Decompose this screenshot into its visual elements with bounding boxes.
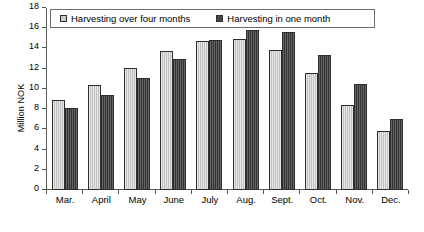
y-axis-tick: 6 xyxy=(42,128,46,129)
x-axis-label: June xyxy=(156,194,192,205)
y-axis-tick: 16 xyxy=(42,27,46,28)
y-axis-tick-label: 16 xyxy=(29,21,39,31)
legend-item-harvesting-over-four-months: Harvesting over four months xyxy=(60,13,190,24)
y-axis-tick-label: 18 xyxy=(29,1,39,11)
bar xyxy=(341,105,354,190)
y-axis-tick-label: 2 xyxy=(34,163,39,173)
plot-area: 024681012141618 xyxy=(46,8,408,190)
y-axis-tick-label: 0 xyxy=(34,183,39,193)
bar-group xyxy=(191,8,227,190)
x-axis-label: July xyxy=(192,194,228,205)
y-axis-tick-label: 14 xyxy=(29,41,39,51)
legend-label: Harvesting over four months xyxy=(71,13,190,24)
y-axis-tick-label: 12 xyxy=(29,62,39,72)
legend-swatch-icon xyxy=(216,15,223,22)
y-axis-tick: 2 xyxy=(42,169,46,170)
x-axis-label: May xyxy=(119,194,155,205)
legend-swatch-icon xyxy=(60,15,67,22)
bar xyxy=(65,108,78,190)
x-axis-label: April xyxy=(83,194,119,205)
bar-groups xyxy=(47,8,408,190)
bar-group xyxy=(372,8,408,190)
bar xyxy=(160,51,173,190)
legend-label: Harvesting in one month xyxy=(227,13,330,24)
bar xyxy=(88,85,101,190)
y-axis-tick-label: 4 xyxy=(34,143,39,153)
x-axis-label: Dec. xyxy=(373,194,409,205)
y-axis-tick: 14 xyxy=(42,47,46,48)
bar-group xyxy=(300,8,336,190)
bar xyxy=(354,84,367,190)
bar-group xyxy=(336,8,372,190)
bar-group xyxy=(119,8,155,190)
bar xyxy=(390,119,403,190)
x-axis-label: Sept. xyxy=(264,194,300,205)
legend-item-harvesting-in-one-month: Harvesting in one month xyxy=(216,13,330,24)
chart-legend: Harvesting over four months Harvesting i… xyxy=(50,9,375,28)
bar-group xyxy=(155,8,191,190)
bar xyxy=(196,41,209,190)
y-axis-tick: 10 xyxy=(42,88,46,89)
x-axis-label: Nov. xyxy=(337,194,373,205)
x-axis-label: Aug. xyxy=(228,194,264,205)
bar xyxy=(269,50,282,190)
y-axis-tick-label: 8 xyxy=(34,102,39,112)
bar xyxy=(209,40,222,190)
bar-group xyxy=(264,8,300,190)
y-axis-tick-label: 10 xyxy=(29,82,39,92)
bar-chart: Million NOK 024681012141618 Mar.AprilMay… xyxy=(0,0,424,232)
y-axis-tick-label: 6 xyxy=(34,122,39,132)
bar xyxy=(246,30,259,190)
y-axis-tick: 12 xyxy=(42,68,46,69)
bar xyxy=(173,59,186,190)
bar xyxy=(101,95,114,190)
y-axis-tick: 18 xyxy=(42,7,46,8)
bar xyxy=(377,131,390,190)
bar-group xyxy=(83,8,119,190)
x-axis-label: Mar. xyxy=(47,194,83,205)
bar xyxy=(137,78,150,190)
bar xyxy=(282,32,295,190)
y-axis-title: Million NOK xyxy=(16,48,26,168)
bar xyxy=(52,100,65,190)
bar xyxy=(318,55,331,190)
y-axis-tick: 4 xyxy=(42,149,46,150)
bar-group xyxy=(47,8,83,190)
bar xyxy=(305,73,318,190)
bar xyxy=(124,68,137,190)
bar-group xyxy=(227,8,263,190)
x-axis-label: Oct. xyxy=(300,194,336,205)
bar xyxy=(233,39,246,190)
y-axis-tick: 8 xyxy=(42,108,46,109)
x-axis-labels: Mar.AprilMayJuneJulyAug.Sept.Oct.Nov.Dec… xyxy=(47,194,409,205)
